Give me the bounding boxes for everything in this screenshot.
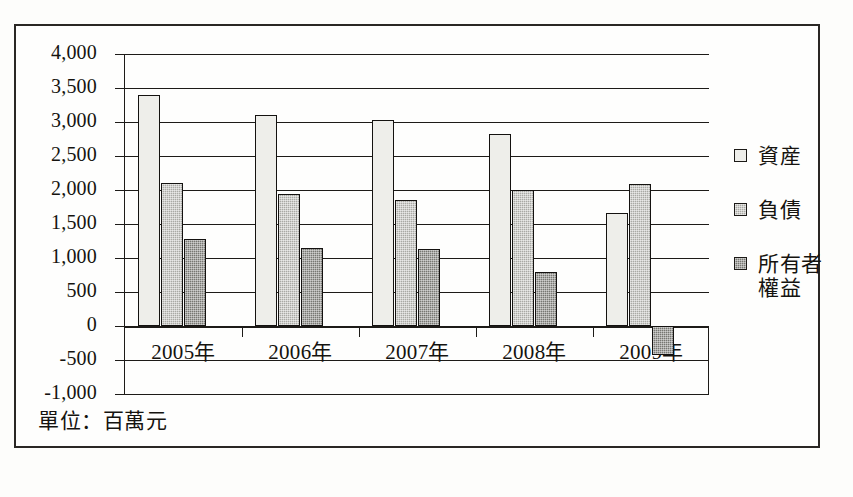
y-tick-mark	[115, 122, 124, 123]
legend-item-assets: 資産	[734, 144, 834, 169]
chart-frame: 4,0003,5003,0002,5002,0001,5001,0005000-…	[14, 24, 820, 448]
legend-swatch-assets	[734, 149, 747, 162]
y-axis-label: 1,000	[11, 246, 97, 266]
bar	[606, 213, 628, 326]
legend-swatch-liabilities	[734, 203, 747, 216]
y-tick-mark	[115, 326, 124, 327]
bar	[489, 134, 511, 326]
y-tick-mark	[115, 156, 124, 157]
bar	[652, 326, 674, 355]
y-axis-label: 2,500	[11, 144, 97, 164]
bar	[184, 239, 206, 326]
x-axis-category-label: 2006年	[242, 335, 359, 365]
legend-item-owners-equity: 所有者權益	[734, 252, 834, 302]
bar	[395, 200, 417, 326]
y-tick-mark	[115, 394, 124, 395]
bar	[418, 249, 440, 326]
x-axis-category-label: 2007年	[359, 335, 476, 365]
legend-swatch-owners-equity	[734, 257, 747, 270]
bar	[278, 194, 300, 326]
y-tick-mark	[115, 360, 124, 361]
y-tick-mark	[115, 54, 124, 55]
bar	[138, 95, 160, 326]
x-axis-category-label: 2005年	[125, 335, 242, 365]
legend-label-owners-equity: 所有者權益	[758, 252, 823, 302]
y-axis-label: 2,000	[11, 178, 97, 198]
y-tick-mark	[115, 88, 124, 89]
y-axis-label: 500	[11, 280, 97, 300]
x-axis-category-label: 2008年	[476, 335, 593, 365]
bar	[629, 184, 651, 326]
y-axis-label: -500	[11, 348, 97, 368]
y-axis-label: -1,000	[11, 382, 97, 402]
y-axis-label: 1,500	[11, 212, 97, 232]
y-tick-mark	[115, 292, 124, 293]
bar	[301, 248, 323, 326]
gridline--1000	[124, 394, 709, 395]
legend-item-liabilities: 負債	[734, 198, 834, 223]
y-axis-label: 3,500	[11, 76, 97, 96]
bar	[255, 115, 277, 326]
legend-label-owners-equity-line1: 所有者	[758, 252, 823, 276]
unit-caption: 單位：百萬元	[38, 404, 167, 434]
legend-label-liabilities: 負債	[758, 198, 801, 223]
chart-legend: 資産 負債 所有者權益	[734, 144, 834, 330]
y-axis-label: 3,000	[11, 110, 97, 130]
y-axis-label: 0	[11, 314, 97, 334]
legend-label-owners-equity-line2: 權益	[758, 276, 801, 300]
category-axis-band: 2005年2006年2007年2008年2009年	[124, 326, 709, 394]
bar	[372, 120, 394, 326]
bar	[512, 190, 534, 326]
legend-label-assets: 資産	[758, 144, 801, 169]
y-tick-mark	[115, 258, 124, 259]
bar	[161, 183, 183, 326]
y-tick-mark	[115, 224, 124, 225]
y-axis-label: 4,000	[11, 42, 97, 62]
bar	[535, 272, 557, 326]
y-tick-mark	[115, 190, 124, 191]
